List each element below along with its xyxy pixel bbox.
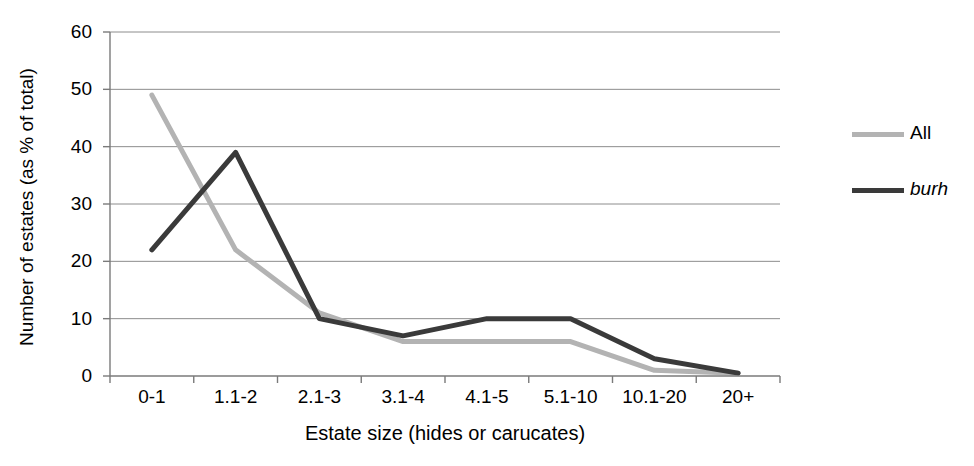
y-axis-tick-label: 0 <box>30 365 92 387</box>
y-axis-tick-labels: 0102030405060 <box>30 0 92 466</box>
x-axis-tick-label: 5.1-10 <box>544 386 598 408</box>
x-axis-tick-labels: 0-11.1-22.1-33.1-44.1-55.1-1010.1-2020+ <box>110 386 780 412</box>
series-line-all <box>152 95 738 373</box>
legend-entry: burh <box>852 178 972 234</box>
series-lines <box>152 95 738 373</box>
y-axis-tick-label: 50 <box>30 78 92 100</box>
x-axis-tick-label: 10.1-20 <box>622 386 686 408</box>
x-axis-title: Estate size (hides or carucates) <box>110 422 780 445</box>
x-axis-tick-label: 0-1 <box>138 386 165 408</box>
x-axis-tick-label: 20+ <box>722 386 754 408</box>
chart-figure: Number of estates (as % of total) 010203… <box>0 0 974 466</box>
legend-label: All <box>910 122 931 144</box>
x-axis-tick-label: 4.1-5 <box>465 386 508 408</box>
y-axis-tick-label: 30 <box>30 193 92 215</box>
x-axis-tick-label: 3.1-4 <box>381 386 424 408</box>
y-axis-tick-label: 40 <box>30 136 92 158</box>
y-axis-tick-label: 60 <box>30 21 92 43</box>
plot-area <box>110 32 780 376</box>
legend: Allburh <box>852 122 972 234</box>
x-axis-ticks <box>110 376 780 383</box>
x-axis-tick-label: 1.1-2 <box>214 386 257 408</box>
legend-swatch <box>852 188 904 193</box>
plot-svg <box>110 32 780 376</box>
x-axis-tick-label: 2.1-3 <box>298 386 341 408</box>
legend-label: burh <box>910 178 948 200</box>
y-axis-tick-label: 20 <box>30 250 92 272</box>
legend-entry: All <box>852 122 972 178</box>
gridlines <box>103 32 780 376</box>
y-axis-tick-label: 10 <box>30 308 92 330</box>
legend-swatch <box>852 132 904 137</box>
